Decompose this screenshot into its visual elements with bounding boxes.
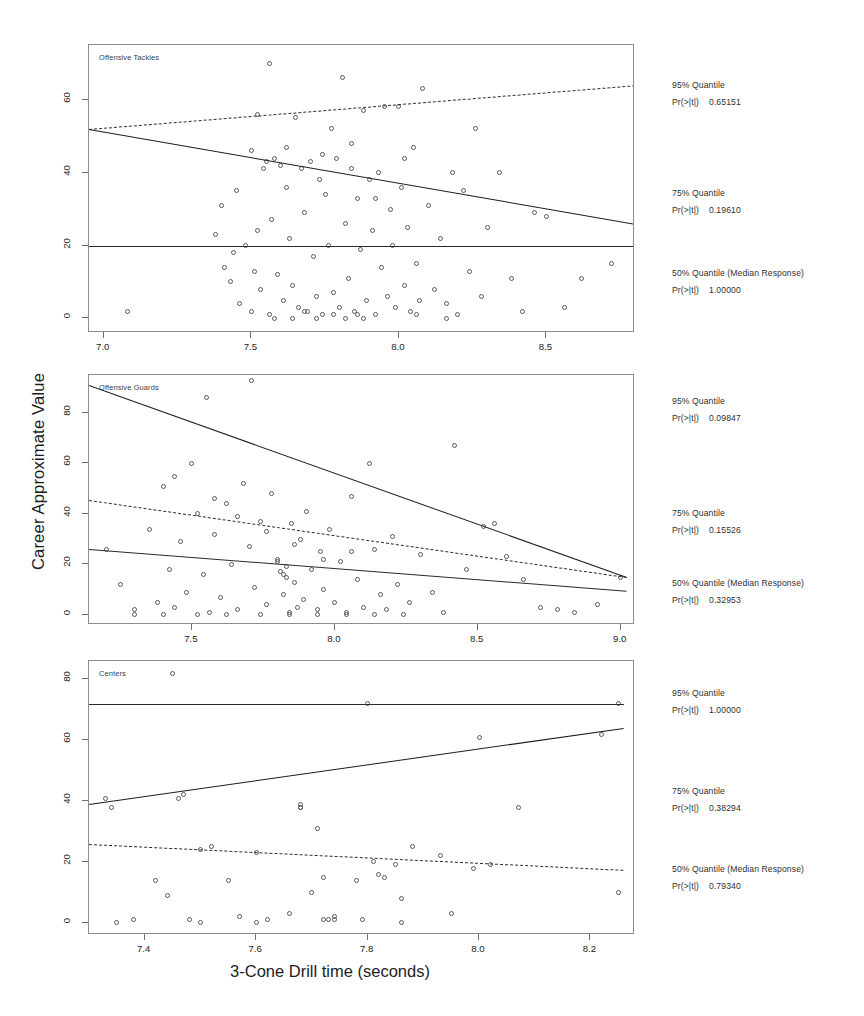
data-point — [349, 166, 354, 171]
panel-title: Offensive Tackles — [99, 53, 159, 62]
data-point — [444, 316, 449, 321]
data-point — [292, 542, 297, 547]
data-point — [249, 378, 254, 383]
x-tick — [255, 934, 256, 940]
data-point — [237, 914, 242, 919]
data-point — [204, 395, 209, 400]
y-tick — [82, 99, 88, 100]
quantile-label: 95% Quantile — [672, 396, 741, 406]
data-point — [222, 265, 227, 270]
pvalue-row: Pr(>|t|)1.00000 — [672, 705, 741, 715]
data-point — [267, 312, 272, 317]
data-point — [450, 170, 455, 175]
data-point — [407, 600, 412, 605]
data-point — [334, 156, 339, 161]
data-point — [323, 192, 328, 197]
pvalue-value: 0.79340 — [709, 881, 741, 891]
data-point — [314, 294, 319, 299]
data-point — [414, 312, 419, 317]
data-point — [414, 261, 419, 266]
data-point — [209, 844, 214, 849]
pvalue-value: 0.38294 — [709, 803, 741, 813]
data-point — [212, 532, 217, 537]
pvalue-row: Pr(>|t|)1.00000 — [672, 285, 804, 295]
y-tick — [82, 245, 88, 246]
data-point — [343, 316, 348, 321]
quantile-label: 95% Quantile — [672, 688, 741, 698]
data-point — [326, 917, 331, 922]
data-point — [284, 575, 289, 580]
data-point — [616, 890, 621, 895]
y-tick — [82, 172, 88, 173]
pvalue-stat-label: Pr(>|t|) — [672, 705, 699, 715]
data-point — [252, 585, 257, 590]
data-point — [354, 878, 359, 883]
quantile-annotation: 75% QuantilePr(>|t|)0.15526 — [672, 508, 741, 535]
data-point — [455, 312, 460, 317]
data-point — [195, 612, 200, 617]
data-point — [213, 232, 218, 237]
data-point — [371, 859, 376, 864]
data-point — [184, 590, 189, 595]
data-point — [304, 509, 309, 514]
data-point — [402, 156, 407, 161]
quantile-fit-line-95 — [89, 385, 627, 578]
y-tick-label: 80 — [61, 398, 72, 422]
x-tick-label: 8.0 — [378, 341, 418, 352]
data-point — [109, 805, 114, 810]
y-tick-label: 60 — [61, 449, 72, 473]
data-point — [432, 287, 437, 292]
x-tick — [144, 934, 145, 940]
data-point — [532, 210, 537, 215]
data-point — [269, 217, 274, 222]
data-point — [373, 312, 378, 317]
quantile-fit-line-95 — [89, 704, 624, 705]
y-tick-label: 0 — [61, 600, 72, 624]
figure-canvas: Career Approximate Value 3-Cone Drill ti… — [0, 0, 864, 1016]
panel-title: Centers — [99, 669, 126, 678]
data-point — [181, 792, 186, 797]
data-point — [287, 236, 292, 241]
data-point — [390, 534, 395, 539]
quantile-annotation: 75% QuantilePr(>|t|)0.19610 — [672, 188, 741, 215]
x-tick-label: 8.2 — [569, 943, 609, 954]
data-point — [315, 826, 320, 831]
data-point — [264, 529, 269, 534]
data-point — [426, 203, 431, 208]
quantile-annotation: 95% QuantilePr(>|t|)1.00000 — [672, 688, 741, 715]
data-point — [349, 141, 354, 146]
data-point — [147, 527, 152, 532]
data-point — [114, 920, 119, 925]
y-tick — [82, 614, 88, 615]
data-point — [125, 309, 130, 314]
y-tick — [82, 678, 88, 679]
pvalue-stat-label: Pr(>|t|) — [672, 413, 699, 423]
data-point — [355, 577, 360, 582]
pvalue-value: 0.65151 — [709, 97, 741, 107]
pvalue-row: Pr(>|t|)0.65151 — [672, 97, 741, 107]
data-point — [269, 491, 274, 496]
data-point — [399, 185, 404, 190]
data-point — [321, 557, 326, 562]
data-point — [267, 61, 272, 66]
data-point — [132, 612, 137, 617]
x-tick — [477, 624, 478, 630]
data-point — [249, 148, 254, 153]
data-point — [361, 108, 366, 113]
data-point — [355, 312, 360, 317]
pvalue-value: 0.09847 — [709, 413, 741, 423]
data-point — [290, 316, 295, 321]
plot-area — [88, 374, 634, 624]
data-point — [198, 920, 203, 925]
data-point — [178, 539, 183, 544]
data-point — [332, 600, 337, 605]
data-point — [254, 920, 259, 925]
data-point — [410, 844, 415, 849]
data-point — [372, 612, 377, 617]
quantile-annotation: 50% Quantile (Median Response)Pr(>|t|)1.… — [672, 268, 804, 295]
data-point — [449, 911, 454, 916]
data-point — [497, 170, 502, 175]
pvalue-row: Pr(>|t|)0.32953 — [672, 595, 804, 605]
pvalue-stat-label: Pr(>|t|) — [672, 881, 699, 891]
y-tick — [82, 800, 88, 801]
